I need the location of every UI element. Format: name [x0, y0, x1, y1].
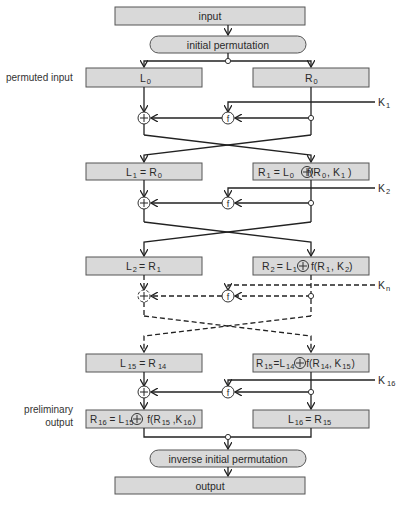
- K16-label: K16: [378, 374, 395, 388]
- preliminary-output-label-1: preliminary: [24, 404, 73, 415]
- preliminary-output-label-2: output: [45, 417, 73, 428]
- split-junction: [225, 58, 230, 63]
- f-node-2: f: [222, 197, 234, 209]
- cross-1b: [144, 135, 311, 162]
- junction-2: [308, 200, 313, 205]
- Kn-label: Kn: [378, 279, 390, 293]
- input-label: input: [199, 10, 222, 22]
- initial-permutation-label: initial permutation: [187, 39, 269, 51]
- K2-label: K2: [378, 182, 390, 196]
- L15-box: L15=R14: [86, 354, 202, 372]
- cross-na: [144, 316, 311, 352]
- inverse-initial-permutation-label: inverse initial permutation: [168, 453, 287, 465]
- K2-line: [228, 188, 375, 197]
- K1-label: K1: [378, 96, 390, 110]
- svg-text:L1=R0: L1=R0: [126, 166, 162, 180]
- cross-nb: [144, 316, 311, 352]
- des-diagram: input initial permutation permuted input…: [0, 0, 404, 505]
- R1-box: R1=L0f(R0, K1 ): [253, 163, 369, 180]
- K1-line: [228, 102, 375, 112]
- inverse-initial-permutation-box: inverse initial permutation: [150, 450, 306, 467]
- xor-in-R16: [132, 414, 143, 425]
- merge-junction: [225, 434, 230, 439]
- output-box: output: [115, 477, 305, 494]
- xor-node-1: [138, 112, 150, 124]
- output-label: output: [195, 480, 224, 492]
- f-node-n: f: [222, 290, 234, 302]
- f-node-16: f: [222, 386, 234, 398]
- L1-box: L1=R0: [86, 163, 202, 180]
- R0-box: R0: [253, 68, 369, 87]
- xor-node-2: [138, 197, 150, 209]
- junction-16: [308, 389, 313, 394]
- initial-permutation-box: initial permutation: [150, 36, 306, 53]
- xor-node-16: [138, 386, 150, 398]
- svg-text:L2=R1: L2=R1: [126, 260, 161, 274]
- Kn-line: [228, 285, 375, 290]
- f-node-1: f: [222, 112, 234, 124]
- L16-box: L16=R15: [253, 410, 369, 428]
- L0-box: L0: [86, 68, 202, 87]
- permuted-input-label: permuted input: [6, 72, 73, 83]
- R16-box: R16=L15f(R15 ,K16): [86, 410, 202, 428]
- xor-in-R1: [302, 167, 313, 178]
- junction-n: [308, 293, 313, 298]
- cross-1a: [144, 135, 311, 162]
- xor-in-R15: [295, 358, 306, 369]
- R2-box: R2=L1f(R1, K2): [253, 257, 369, 275]
- input-box: input: [115, 7, 305, 25]
- junction-1: [308, 115, 313, 120]
- arrow-to-R0: [228, 61, 311, 67]
- K16-line: [228, 380, 375, 386]
- R15-box: R15=L14f(R14, K15): [253, 354, 369, 372]
- xor-in-R2: [298, 261, 309, 272]
- L2-box: L2=R1: [86, 257, 202, 275]
- arrow-to-L0: [144, 61, 228, 67]
- xor-node-n: [138, 290, 150, 302]
